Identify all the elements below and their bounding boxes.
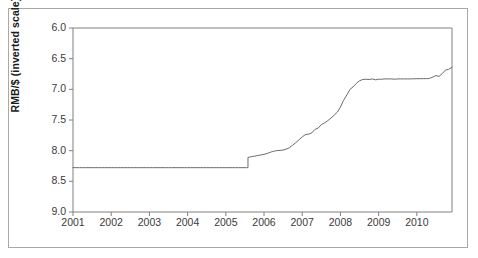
x-tick-label: 2001 xyxy=(53,216,93,228)
x-tick-labels: 2001200220032004200520062007200820092010 xyxy=(0,216,478,234)
data-series xyxy=(73,67,452,167)
y-tick-label: 8.5 xyxy=(36,174,66,186)
y-tick-label: 7.5 xyxy=(36,113,66,125)
x-tick-label: 2008 xyxy=(320,216,360,228)
x-tick-label: 2004 xyxy=(168,216,208,228)
y-axis-title: RMB/$ (inverted scale) xyxy=(9,0,27,135)
y-tick-label: 8.0 xyxy=(36,144,66,156)
x-tick-label: 2006 xyxy=(244,216,284,228)
x-tick-label: 2009 xyxy=(359,216,399,228)
y-tick-label: 6.0 xyxy=(36,21,66,33)
x-tick-label: 2005 xyxy=(206,216,246,228)
chart-figure: RMB/$ (inverted scale) 6.06.57.07.58.08.… xyxy=(0,0,478,258)
x-tick-label: 2010 xyxy=(397,216,437,228)
series-line xyxy=(73,67,452,167)
x-tick-label: 2002 xyxy=(91,216,131,228)
y-tick-label: 7.0 xyxy=(36,82,66,94)
x-tick-label: 2007 xyxy=(282,216,322,228)
y-tick-label: 6.5 xyxy=(36,52,66,64)
axis-group xyxy=(73,28,452,212)
tick-marks xyxy=(69,28,417,216)
x-tick-label: 2003 xyxy=(129,216,169,228)
